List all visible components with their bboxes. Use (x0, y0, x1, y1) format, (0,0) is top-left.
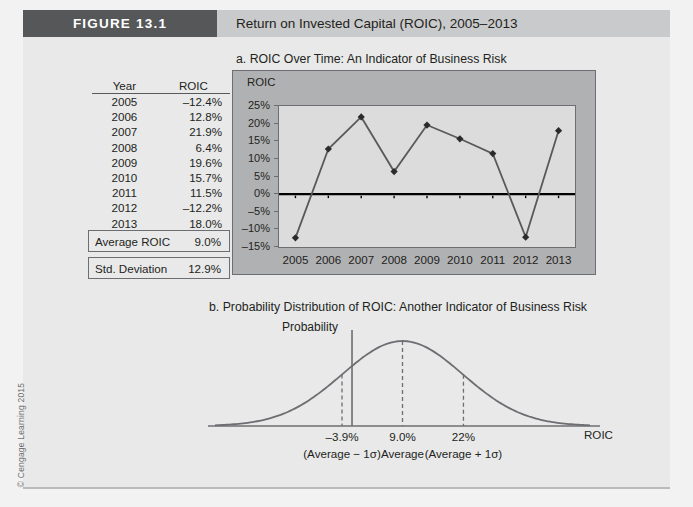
table-row: 201015.7% (92, 170, 230, 185)
cell-roic: 6.4% (157, 140, 230, 155)
column-header-year: Year (92, 79, 157, 94)
column-header-roic: ROIC (157, 79, 230, 94)
figure-title: Return on Invested Capital (ROIC), 2005–… (236, 10, 517, 37)
bell-curve-x-axis-label: ROIC (584, 428, 613, 441)
cell-roic: 18.0% (157, 216, 230, 231)
cell-roic: 19.6% (157, 155, 230, 170)
roic-series-line (295, 117, 558, 238)
roic-line-chart: ROIC 25%20%15%10%5%0%–5%–10%–15% 2005200… (232, 70, 596, 275)
table-row: 20086.4% (92, 140, 230, 155)
y-axis-tick-mark (274, 105, 278, 106)
figure-page: FIGURE 13.1 Return on Invested Capital (… (0, 0, 693, 507)
table-header-row: Year ROIC (92, 79, 230, 94)
caption-panel-b: b. Probability Distribution of ROIC: Ano… (209, 300, 587, 314)
x-axis-tick-label: 2008 (381, 253, 407, 266)
line-chart-svg (279, 106, 575, 247)
y-axis-tick-mark (274, 140, 278, 141)
table-row: 201111.5% (92, 185, 230, 200)
y-axis-tick-label: 20% (226, 117, 270, 129)
data-point-marker (292, 234, 299, 241)
cell-roic: 15.7% (157, 170, 230, 185)
cell-roic: –12.4% (157, 94, 230, 110)
y-axis-tick-label: –15% (226, 240, 270, 252)
cell-year: 2008 (92, 140, 157, 155)
y-axis-tick-mark (274, 158, 278, 159)
table-row: 201318.0% (92, 216, 230, 231)
data-point-marker (522, 234, 529, 241)
y-axis-tick-label: –5% (226, 205, 270, 217)
table-row: 200721.9% (92, 124, 230, 139)
table-row: 200612.8% (92, 109, 230, 124)
marker-value-label: 22% (452, 430, 475, 443)
copyright-notice: © Cengage Learning 2015 (16, 375, 26, 495)
y-axis-tick-label: 0% (226, 187, 270, 199)
x-axis-tick-label: 2010 (447, 253, 473, 266)
cell-roic: 11.5% (157, 185, 230, 200)
y-axis-tick-label: –10% (226, 222, 270, 234)
data-point-marker (456, 135, 463, 142)
x-axis-tick-label: 2013 (546, 253, 572, 266)
summary-stddev-label: Std. Deviation (95, 262, 167, 275)
marker-value-label: –3.9% (326, 430, 359, 443)
y-axis-tick-mark (274, 228, 278, 229)
x-axis-tick-label: 2005 (283, 253, 309, 266)
y-axis-tick-label: 10% (226, 152, 270, 164)
summary-average-label: Average ROIC (95, 235, 170, 248)
x-axis-tick-label: 2011 (480, 253, 505, 266)
marker-sublabel: (Average − 1σ) (303, 447, 381, 460)
y-axis-tick-label: 5% (226, 170, 270, 182)
cell-year: 2009 (92, 155, 157, 170)
cell-roic: –12.2% (157, 200, 230, 215)
y-axis-tick-mark (274, 193, 278, 194)
x-axis-tick-label: 2012 (513, 253, 539, 266)
y-axis-tick-label: 15% (226, 134, 270, 146)
cell-year: 2006 (92, 109, 157, 124)
probability-axis-label: Probability (282, 320, 338, 334)
y-axis-tick-label: 25% (226, 99, 270, 111)
roic-probability-distribution: Probability –3.9%(Average − 1σ)9.0%Avera… (180, 318, 630, 478)
x-axis-tick-label: 2006 (315, 253, 341, 266)
figure-number-tag: FIGURE 13.1 (23, 10, 217, 37)
y-axis-tick-mark (274, 211, 278, 212)
roic-data-table: Year ROIC 2005–12.4%200612.8%200721.9%20… (92, 79, 230, 231)
cell-year: 2007 (92, 124, 157, 139)
summary-stddev-value: 12.9% (188, 262, 221, 275)
cell-year: 2012 (92, 200, 157, 215)
cell-year: 2011 (92, 185, 157, 200)
marker-sublabel: (Average + 1σ) (425, 447, 503, 460)
summary-average-roic: Average ROIC 9.0% (88, 230, 230, 252)
summary-average-value: 9.0% (195, 235, 221, 248)
marker-sublabel: Average (381, 447, 424, 460)
x-axis-tick-label: 2009 (414, 253, 440, 266)
cell-year: 2010 (92, 170, 157, 185)
y-axis-tick-mark (274, 246, 278, 247)
cell-year: 2013 (92, 216, 157, 231)
table-row: 200919.6% (92, 155, 230, 170)
data-point-marker (555, 127, 562, 134)
summary-std-deviation: Std. Deviation 12.9% (88, 257, 230, 279)
caption-panel-a: a. ROIC Over Time: An Indicator of Busin… (236, 52, 507, 66)
bell-curve-svg (180, 318, 630, 448)
x-axis-tick-label: 2007 (348, 253, 374, 266)
cell-year: 2005 (92, 94, 157, 110)
table-row: 2012–12.2% (92, 200, 230, 215)
table-row: 2005–12.4% (92, 94, 230, 110)
y-axis-tick-mark (274, 123, 278, 124)
data-point-marker (489, 150, 496, 157)
y-axis-tick-mark (274, 176, 278, 177)
marker-value-label: 9.0% (389, 430, 415, 443)
cell-roic: 21.9% (157, 124, 230, 139)
line-chart-plot-area (278, 105, 576, 248)
bottom-divider (23, 487, 670, 489)
line-chart-y-axis-title: ROIC (247, 76, 275, 88)
cell-roic: 12.8% (157, 109, 230, 124)
